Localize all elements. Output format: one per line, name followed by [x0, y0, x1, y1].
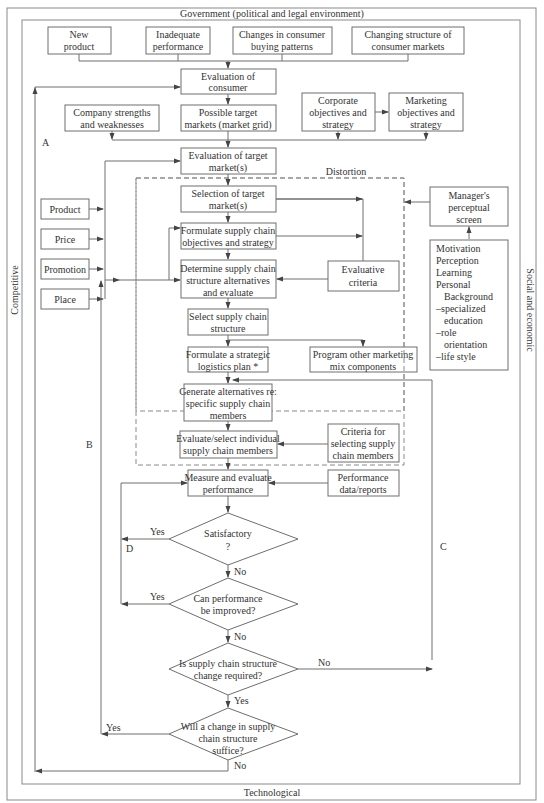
loop-label-a: A — [42, 137, 50, 148]
svg-text:Promotion: Promotion — [44, 264, 86, 275]
loop-label-b: B — [86, 439, 93, 450]
svg-text:Company strengths: Company strengths — [73, 107, 151, 118]
svg-text:Corporate: Corporate — [318, 95, 359, 106]
trigger-inadequate-performance: Inadequate performance — [146, 27, 210, 54]
svg-text:Generate alternatives re:: Generate alternatives re: — [179, 386, 277, 397]
svg-text:–role: –role — [435, 327, 457, 338]
svg-text:suffice?: suffice? — [212, 745, 244, 756]
svg-text:New: New — [70, 29, 90, 40]
trigger-new-product: New product — [48, 27, 111, 54]
svg-text:data/reports: data/reports — [339, 484, 386, 495]
trigger-changes-buying-patterns: Changes in consumer buying patterns — [233, 27, 332, 54]
svg-text:Marketing: Marketing — [405, 95, 447, 106]
node-formulate-supply-chain-objectives: Formulate supply chain objectives and st… — [181, 223, 276, 249]
svg-text:mix components: mix components — [330, 361, 396, 372]
distortion-label: Distortion — [326, 166, 367, 177]
decision-satisfactory: Satisfactory ? — [169, 513, 298, 565]
svg-text:Background: Background — [444, 291, 493, 302]
svg-text:Evaluation of target: Evaluation of target — [188, 150, 267, 161]
supply-chain-planning-flowchart: Government (political and legal environm… — [0, 0, 544, 803]
svg-text:and weaknesses: and weaknesses — [80, 119, 144, 130]
edge-label-no-4: No — [234, 760, 246, 771]
svg-text:Will a change in supply: Will a change in supply — [181, 721, 276, 732]
svg-text:strategy: strategy — [322, 119, 354, 130]
edge-label-yes-1: Yes — [150, 526, 165, 537]
svg-text:education: education — [444, 315, 483, 326]
marketing-mix-promotion: Promotion — [41, 259, 89, 279]
node-measure-evaluate-performance: Measure and evaluate performance — [184, 470, 272, 496]
svg-text:Criteria for: Criteria for — [341, 426, 386, 437]
marketing-mix-product: Product — [41, 199, 89, 219]
node-select-supply-chain-structure: Select supply chain structure — [188, 309, 268, 335]
svg-text:Personal: Personal — [436, 279, 471, 290]
svg-text:Evaluation of: Evaluation of — [201, 71, 256, 82]
node-performance-data: Performance data/reports — [328, 470, 399, 496]
node-program-other-marketing-mix: Program other marketing mix components — [310, 347, 417, 372]
svg-text:Evaluate/select individual: Evaluate/select individual — [176, 433, 280, 444]
node-perceptual-factors: Motivation Perception Learning Personal … — [430, 240, 508, 370]
decision-change-suffice: Will a change in supply chain structure … — [169, 708, 298, 760]
svg-text:selecting supply: selecting supply — [331, 438, 396, 449]
svg-text:logistics plan *: logistics plan * — [198, 361, 259, 372]
svg-text:Formulate supply chain: Formulate supply chain — [181, 225, 275, 236]
svg-text:performance: performance — [203, 484, 254, 495]
svg-text:markets (market grid): markets (market grid) — [184, 119, 271, 131]
edge-label-yes-3: Yes — [234, 695, 249, 706]
edge-label-yes-4: Yes — [106, 722, 121, 733]
svg-text:Satisfactory: Satisfactory — [204, 528, 252, 539]
env-label-top: Government (political and legal environm… — [180, 8, 364, 20]
svg-text:market(s): market(s) — [209, 200, 247, 212]
svg-text:structure alternatives: structure alternatives — [186, 275, 270, 286]
svg-text:members: members — [210, 410, 247, 421]
svg-text:?: ? — [226, 541, 231, 552]
svg-text:Changing structure of: Changing structure of — [364, 29, 452, 40]
node-evaluative-criteria: Evaluative criteria — [328, 261, 399, 291]
marketing-mix-price: Price — [41, 229, 89, 249]
svg-text:screen: screen — [456, 214, 482, 225]
svg-text:consumer: consumer — [209, 82, 249, 93]
node-generate-alternatives: Generate alternatives re: specific suppl… — [179, 384, 277, 421]
svg-text:change required?: change required? — [194, 670, 263, 681]
svg-text:chain members: chain members — [333, 450, 394, 461]
svg-text:Is supply chain structure: Is supply chain structure — [179, 658, 278, 669]
svg-text:Price: Price — [55, 234, 76, 245]
loop-label-d: D — [126, 543, 133, 554]
svg-text:buying patterns: buying patterns — [251, 41, 313, 52]
svg-text:–specialized: –specialized — [435, 303, 485, 314]
loop-label-c: C — [440, 541, 447, 552]
svg-text:Formulate a strategic: Formulate a strategic — [186, 349, 271, 360]
decision-sc-change-required: Is supply chain structure change require… — [169, 643, 298, 695]
svg-text:Select supply chain: Select supply chain — [189, 311, 267, 322]
svg-text:Measure and evaluate: Measure and evaluate — [184, 472, 272, 483]
distortion-region-extent — [136, 178, 404, 465]
svg-text:product: product — [64, 41, 95, 52]
svg-text:consumer markets: consumer markets — [371, 41, 444, 52]
node-evaluation-of-consumer: Evaluation of consumer — [181, 69, 276, 94]
env-label-right: Social and economic — [525, 268, 536, 352]
svg-text:Can performance: Can performance — [193, 593, 263, 604]
decision-can-improve: Can performance be improved? — [169, 578, 298, 630]
svg-text:perceptual: perceptual — [448, 202, 490, 213]
node-evaluation-of-target-markets: Evaluation of target market(s) — [181, 148, 276, 174]
svg-text:supply chain members: supply chain members — [183, 445, 273, 456]
svg-text:and evaluate: and evaluate — [203, 287, 254, 298]
svg-text:structure: structure — [211, 323, 247, 334]
svg-text:Program other marketing: Program other marketing — [313, 349, 414, 360]
edge-label-no-3: No — [318, 657, 330, 668]
svg-text:orientation: orientation — [444, 339, 487, 350]
edge-label-yes-2: Yes — [150, 591, 165, 602]
svg-text:Inadequate: Inadequate — [156, 29, 200, 40]
svg-text:be improved?: be improved? — [201, 605, 256, 616]
svg-text:strategy: strategy — [410, 119, 442, 130]
svg-text:Perception: Perception — [436, 255, 479, 266]
env-label-left: Competitive — [9, 265, 20, 315]
node-corporate-objectives: Corporate objectives and strategy — [302, 93, 375, 131]
node-managers-perceptual-screen: Manager's perceptual screen — [430, 187, 508, 226]
svg-text:Learning: Learning — [436, 267, 472, 278]
trigger-changing-market-structure: Changing structure of consumer markets — [352, 27, 464, 54]
svg-text:–life style: –life style — [435, 351, 476, 362]
node-possible-target-markets: Possible target markets (market grid) — [181, 105, 276, 131]
edge-label-no-1: No — [234, 566, 246, 577]
svg-text:Manager's: Manager's — [448, 190, 489, 201]
svg-text:Selection of target: Selection of target — [191, 188, 264, 199]
